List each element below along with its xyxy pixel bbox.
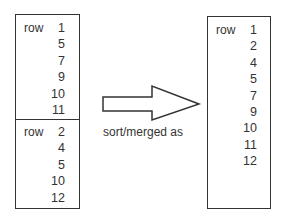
arrow-caption: sort/merged as bbox=[103, 125, 183, 139]
value: 11 bbox=[243, 137, 257, 153]
value: 5 bbox=[243, 71, 257, 87]
value: 12 bbox=[51, 190, 65, 206]
value: 2 bbox=[243, 38, 257, 54]
row-label: row bbox=[24, 125, 43, 139]
value: 9 bbox=[51, 69, 65, 85]
value: 1 bbox=[243, 22, 257, 38]
left-box: row 1 5 7 9 10 11 row 2 4 5 10 12 bbox=[15, 14, 80, 209]
value: 5 bbox=[51, 157, 65, 173]
value: 10 bbox=[51, 173, 65, 189]
value: 11 bbox=[51, 102, 65, 118]
row-label: row bbox=[24, 21, 43, 35]
value: 5 bbox=[51, 36, 65, 52]
value: 12 bbox=[243, 153, 257, 169]
left-top-section: row 1 5 7 9 10 11 bbox=[16, 15, 79, 119]
right-box: row 1 2 4 5 7 9 10 11 12 bbox=[207, 16, 271, 209]
row-values: 1 2 4 5 7 9 10 11 12 bbox=[243, 22, 257, 170]
row-values: 2 4 5 10 12 bbox=[51, 124, 65, 206]
right-arrow-icon bbox=[100, 84, 210, 124]
value: 7 bbox=[243, 88, 257, 104]
value: 4 bbox=[51, 140, 65, 156]
value: 10 bbox=[51, 86, 65, 102]
value: 1 bbox=[51, 20, 65, 36]
value: 9 bbox=[243, 104, 257, 120]
value: 10 bbox=[243, 120, 257, 136]
row-values: 1 5 7 9 10 11 bbox=[51, 20, 65, 118]
row-label: row bbox=[216, 23, 235, 37]
left-bottom-section: row 2 4 5 10 12 bbox=[16, 120, 79, 208]
value: 4 bbox=[243, 55, 257, 71]
value: 7 bbox=[51, 53, 65, 69]
value: 2 bbox=[51, 124, 65, 140]
